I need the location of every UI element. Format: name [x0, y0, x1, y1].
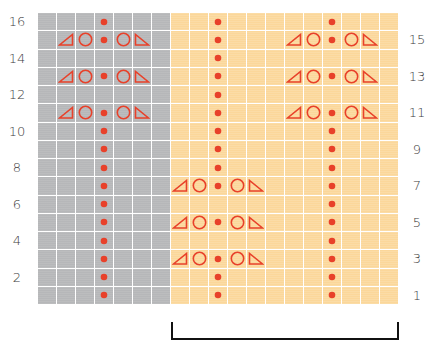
chart-cell — [380, 50, 399, 68]
chart-cell — [171, 50, 190, 68]
chart-cell — [209, 250, 228, 268]
dot-symbol-icon — [323, 31, 341, 48]
chart-cell — [266, 104, 285, 122]
dot-symbol-icon — [95, 141, 113, 158]
chart-cell — [380, 214, 399, 232]
right-triangle-symbol-icon — [361, 104, 379, 121]
right-triangle-symbol-icon — [247, 250, 265, 267]
dot-symbol-icon — [323, 68, 341, 85]
chart-cell — [266, 214, 285, 232]
chart-cell — [114, 177, 133, 195]
chart-cell — [114, 232, 133, 250]
dot-symbol-icon — [95, 177, 113, 194]
chart-cell — [380, 86, 399, 104]
chart-cell — [171, 31, 190, 49]
chart-cell — [95, 123, 114, 141]
circle-symbol-icon — [342, 104, 360, 121]
chart-cell — [190, 232, 209, 250]
chart-cell — [38, 196, 57, 214]
chart-cell — [228, 104, 247, 122]
dot-symbol-icon — [323, 177, 341, 194]
chart-cell — [114, 31, 133, 49]
chart-cell — [57, 141, 76, 159]
chart-cell — [285, 269, 304, 287]
chart-cell — [380, 141, 399, 159]
chart-cell — [152, 232, 171, 250]
chart-cell — [266, 86, 285, 104]
chart-cell — [95, 13, 114, 31]
chart-cell — [380, 177, 399, 195]
chart-cell — [304, 159, 323, 177]
dot-symbol-icon — [209, 250, 227, 267]
right-triangle-symbol-icon — [361, 31, 379, 48]
chart-cell — [209, 177, 228, 195]
chart-cell — [190, 250, 209, 268]
row-label-9: 9 — [406, 143, 428, 156]
chart-cell — [114, 68, 133, 86]
left-triangle-symbol-icon — [57, 104, 75, 121]
row-label-8: 8 — [4, 161, 30, 174]
chart-cell — [266, 159, 285, 177]
dot-symbol-icon — [323, 141, 341, 158]
dot-symbol-icon — [209, 287, 227, 304]
dot-symbol-icon — [323, 232, 341, 249]
chart-cell — [342, 141, 361, 159]
chart-cell — [361, 232, 380, 250]
chart-cell — [171, 177, 190, 195]
dot-symbol-icon — [209, 269, 227, 286]
chart-cell — [247, 50, 266, 68]
chart-cell — [323, 269, 342, 287]
chart-cell — [38, 214, 57, 232]
dot-symbol-icon — [95, 196, 113, 213]
chart-cell — [247, 104, 266, 122]
chart-cell — [285, 232, 304, 250]
chart-cell — [361, 177, 380, 195]
chart-cell — [95, 159, 114, 177]
chart-cell — [304, 232, 323, 250]
chart-cell — [380, 287, 399, 305]
chart-cell — [285, 31, 304, 49]
chart-cell — [38, 31, 57, 49]
chart-cell — [228, 68, 247, 86]
chart-cell — [190, 68, 209, 86]
chart-cell — [361, 196, 380, 214]
chart-cell — [190, 31, 209, 49]
chart-cell — [57, 13, 76, 31]
chart-cell — [209, 104, 228, 122]
chart-cell — [152, 269, 171, 287]
chart-cell — [152, 86, 171, 104]
dot-symbol-icon — [323, 287, 341, 304]
dot-symbol-icon — [209, 50, 227, 67]
chart-cell — [133, 269, 152, 287]
chart-cell — [342, 50, 361, 68]
circle-symbol-icon — [76, 31, 94, 48]
dot-symbol-icon — [209, 68, 227, 85]
chart-cell — [266, 50, 285, 68]
chart-cell — [114, 104, 133, 122]
chart-cell — [171, 287, 190, 305]
chart-cell — [285, 159, 304, 177]
circle-symbol-icon — [114, 31, 132, 48]
chart-cell — [247, 177, 266, 195]
chart-cell — [380, 68, 399, 86]
chart-cell — [228, 13, 247, 31]
row-label-1: 1 — [406, 289, 428, 302]
chart-cell — [152, 196, 171, 214]
chart-cell — [114, 159, 133, 177]
chart-cell — [209, 13, 228, 31]
chart-cell — [171, 86, 190, 104]
chart-cell — [228, 50, 247, 68]
chart-cell — [266, 269, 285, 287]
chart-cell — [95, 31, 114, 49]
chart-cell — [323, 232, 342, 250]
chart-cell — [190, 196, 209, 214]
chart-cell — [228, 287, 247, 305]
chart-cell — [133, 68, 152, 86]
circle-symbol-icon — [228, 250, 246, 267]
chart-cell — [133, 214, 152, 232]
chart-cell — [38, 50, 57, 68]
chart-cell — [190, 214, 209, 232]
chart-cell — [266, 232, 285, 250]
chart-cell — [266, 250, 285, 268]
chart-cell — [190, 159, 209, 177]
